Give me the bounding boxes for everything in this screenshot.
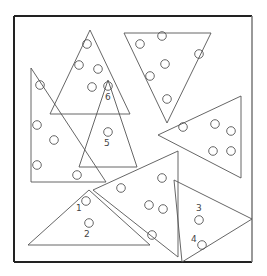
number-label: 6 [105,92,111,102]
circle-marker [158,174,167,183]
circle-marker [209,147,218,156]
triangle-A [50,30,130,114]
number-label: 5 [104,138,110,148]
number-label: 2 [84,229,90,239]
triangle-E [158,96,241,178]
number-label: 4 [191,234,197,244]
circle-marker [227,127,236,136]
number-label: 3 [196,203,202,213]
circle-marker [148,231,157,240]
circles [33,32,236,250]
circle-marker [73,171,82,180]
labels: 651234 [76,92,202,244]
circle-marker [195,216,204,225]
circle-marker [88,83,97,92]
circle-marker [33,161,42,170]
circle-marker [145,201,154,210]
circle-marker [227,147,236,156]
triangles-diagram: 651234 [0,0,267,276]
circle-marker [159,205,168,214]
circle-marker [82,197,91,206]
circle-marker [117,184,126,193]
circle-marker [94,65,103,74]
circle-marker [85,219,94,228]
circle-marker [211,120,220,129]
circle-marker [161,60,170,69]
triangle-C [31,68,106,182]
circle-marker [75,61,84,70]
circle-marker [136,40,145,49]
circle-marker [83,40,92,49]
triangle-H [174,180,252,262]
circle-marker [163,95,172,104]
circle-marker [146,72,155,81]
circle-marker [179,123,188,132]
circle-marker [104,128,113,137]
triangles [28,30,252,262]
circle-marker [104,82,113,91]
circle-marker [198,241,207,250]
circle-marker [50,136,59,145]
number-label: 1 [76,203,82,213]
circle-marker [33,121,42,130]
